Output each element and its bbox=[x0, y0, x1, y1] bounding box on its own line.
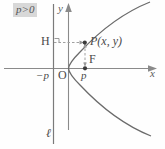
parabola-figure: p>0 y x H P(x, y) F O −p p ℓ bbox=[0, 0, 165, 149]
directrix-label: ℓ bbox=[46, 127, 51, 139]
x-axis-label: x bbox=[150, 68, 155, 79]
condition-label: p>0 bbox=[13, 3, 37, 17]
tick-negative-p-label: −p bbox=[36, 70, 49, 81]
origin-label: O bbox=[58, 69, 67, 81]
focus-f-label: F bbox=[89, 53, 96, 65]
point-h-label: H bbox=[41, 35, 50, 47]
segment-p-to-f bbox=[83, 43, 87, 67]
point-p-marker bbox=[83, 41, 87, 45]
point-p-label: P(x, y) bbox=[90, 35, 122, 47]
y-axis-label: y bbox=[58, 3, 63, 14]
tick-positive-p-label: p bbox=[81, 70, 87, 81]
